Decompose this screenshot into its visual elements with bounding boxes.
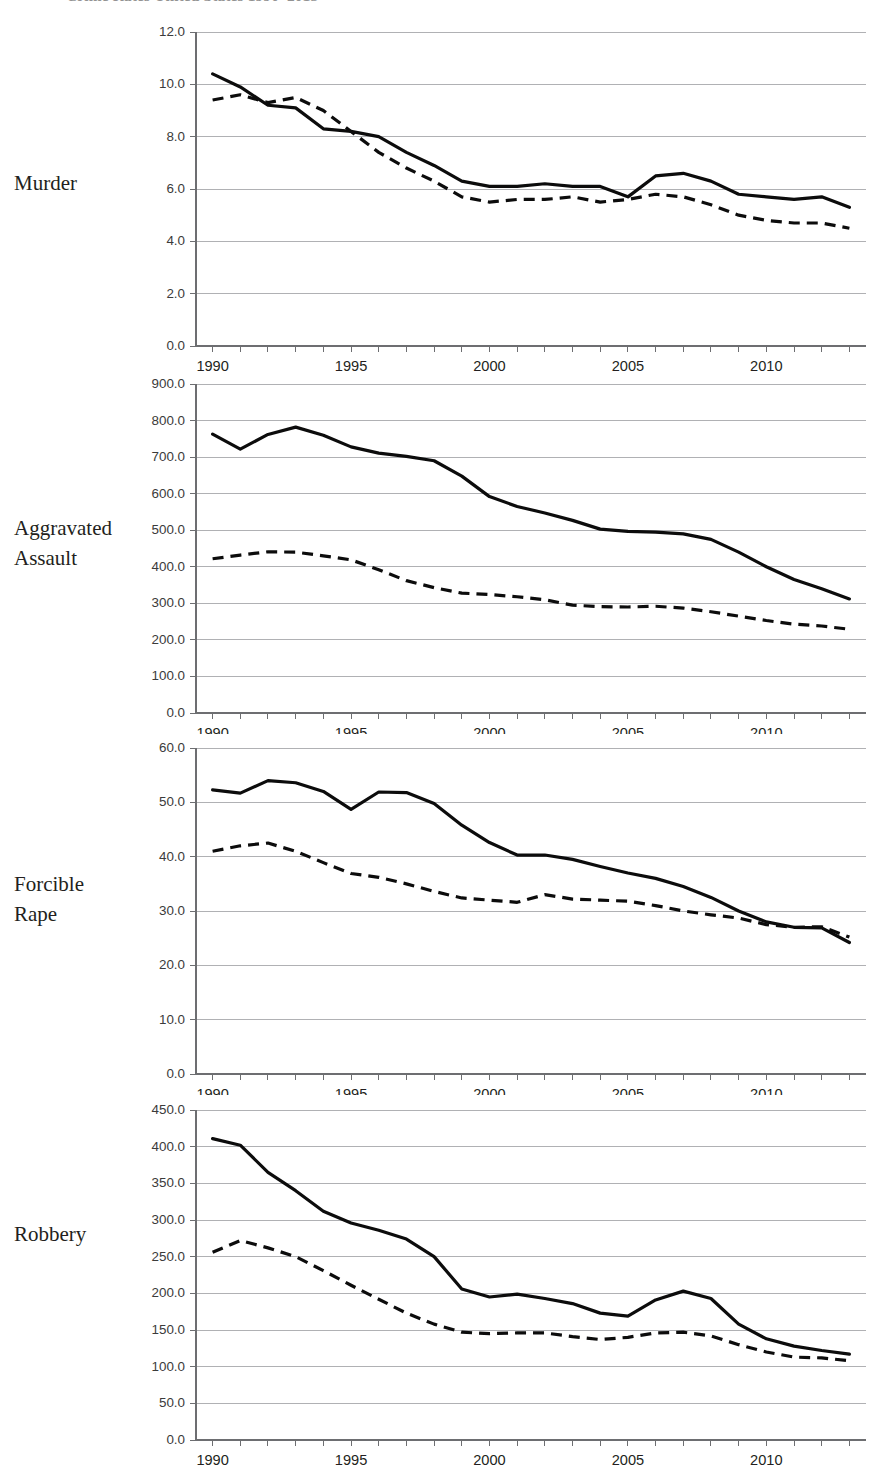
y-axis-tick-label: 200.0 <box>151 1285 185 1300</box>
y-axis-tick-label: 2.0 <box>166 286 185 301</box>
x-axis-tick-label: 1995 <box>335 1086 367 1095</box>
y-axis-tick-label: 10.0 <box>159 76 185 91</box>
y-axis-tick-label: 40.0 <box>159 849 185 864</box>
y-axis-tick-label: 8.0 <box>166 129 185 144</box>
y-axis-tick-label: 30.0 <box>159 903 185 918</box>
y-axis-tick-label: 400.0 <box>151 1139 185 1154</box>
series-line-dashed <box>213 95 850 228</box>
x-axis-tick-label: 1995 <box>335 1452 367 1468</box>
y-axis-tick-label: 20.0 <box>159 957 185 972</box>
x-axis-tick-label: 1990 <box>196 1452 228 1468</box>
x-axis-tick-label: 2000 <box>473 1452 505 1468</box>
series-line-solid <box>213 781 850 943</box>
x-axis-tick-label: 2000 <box>473 1086 505 1095</box>
y-axis-tick-label: 900.0 <box>151 376 185 391</box>
chart-svg: 0.050.0100.0150.0200.0250.0300.0350.0400… <box>0 1096 873 1483</box>
x-axis-tick-label: 1995 <box>335 358 367 374</box>
x-axis-tick-label: 2005 <box>612 725 644 734</box>
panel-murder: Murder 0.02.04.06.08.010.012.01990199520… <box>0 14 873 374</box>
x-axis-tick-label: 1990 <box>196 725 228 734</box>
y-axis-tick-label: 0.0 <box>166 1066 185 1081</box>
y-axis-tick-label: 250.0 <box>151 1249 185 1264</box>
y-axis-tick-label: 10.0 <box>159 1012 185 1027</box>
x-axis-tick-label: 2010 <box>750 358 782 374</box>
figure-title: Crime Rates United States 1990–2013 <box>66 0 566 3</box>
chart-robbery: 0.050.0100.0150.0200.0250.0300.0350.0400… <box>0 1096 873 1483</box>
x-axis-tick-label: 2005 <box>612 358 644 374</box>
y-axis-tick-label: 800.0 <box>151 413 185 428</box>
series-line-solid <box>213 427 850 599</box>
chart-svg: 0.0100.0200.0300.0400.0500.0600.0700.080… <box>0 374 873 734</box>
series-line-solid <box>213 74 850 207</box>
y-axis-tick-label: 300.0 <box>151 1212 185 1227</box>
y-axis-tick-label: 4.0 <box>166 233 185 248</box>
y-axis-tick-label: 450.0 <box>151 1102 185 1117</box>
x-axis-tick-label: 1990 <box>196 358 228 374</box>
x-axis-tick-label: 2005 <box>612 1452 644 1468</box>
series-line-dashed <box>213 843 850 937</box>
chart-svg: 0.02.04.06.08.010.012.019901995200020052… <box>0 14 873 374</box>
x-axis-tick-label: 1995 <box>335 725 367 734</box>
y-axis-tick-label: 350.0 <box>151 1175 185 1190</box>
chart-svg: 0.010.020.030.040.050.060.01990199520002… <box>0 740 873 1095</box>
chart-aggravated-assault: 0.0100.0200.0300.0400.0500.0600.0700.080… <box>0 374 873 734</box>
series-line-dashed <box>213 1241 850 1361</box>
y-axis-tick-label: 700.0 <box>151 449 185 464</box>
panel-robbery: Robbery 0.050.0100.0150.0200.0250.0300.0… <box>0 1096 873 1483</box>
y-axis-tick-label: 100.0 <box>151 668 185 683</box>
y-axis-tick-label: 200.0 <box>151 632 185 647</box>
x-axis-tick-label: 2010 <box>750 1452 782 1468</box>
y-axis-tick-label: 600.0 <box>151 486 185 501</box>
y-axis-tick-label: 0.0 <box>166 705 185 720</box>
panel-forcible-rape: Forcible Rape 0.010.020.030.040.050.060.… <box>0 740 873 1095</box>
x-axis-tick-label: 2010 <box>750 1086 782 1095</box>
chart-murder: 0.02.04.06.08.010.012.019901995200020052… <box>0 14 873 374</box>
y-axis-tick-label: 50.0 <box>159 794 185 809</box>
y-axis-tick-label: 6.0 <box>166 181 185 196</box>
y-axis-tick-label: 60.0 <box>159 740 185 755</box>
x-axis-tick-label: 2000 <box>473 358 505 374</box>
series-line-solid <box>213 1139 850 1355</box>
y-axis-tick-label: 50.0 <box>159 1395 185 1410</box>
series-line-dashed <box>213 552 850 629</box>
y-axis-tick-label: 500.0 <box>151 522 185 537</box>
y-axis-tick-label: 0.0 <box>166 1432 185 1447</box>
x-axis-tick-label: 1990 <box>196 1086 228 1095</box>
y-axis-tick-label: 12.0 <box>159 24 185 39</box>
chart-forcible-rape: 0.010.020.030.040.050.060.01990199520002… <box>0 740 873 1095</box>
y-axis-tick-label: 300.0 <box>151 595 185 610</box>
x-axis-tick-label: 2010 <box>750 725 782 734</box>
x-axis-tick-label: 2005 <box>612 1086 644 1095</box>
y-axis-tick-label: 400.0 <box>151 559 185 574</box>
x-axis-tick-label: 2000 <box>473 725 505 734</box>
y-axis-tick-label: 0.0 <box>166 338 185 353</box>
y-axis-tick-label: 150.0 <box>151 1322 185 1337</box>
panel-aggravated-assault: Aggravated Assault 0.0100.0200.0300.0400… <box>0 374 873 734</box>
y-axis-tick-label: 100.0 <box>151 1359 185 1374</box>
